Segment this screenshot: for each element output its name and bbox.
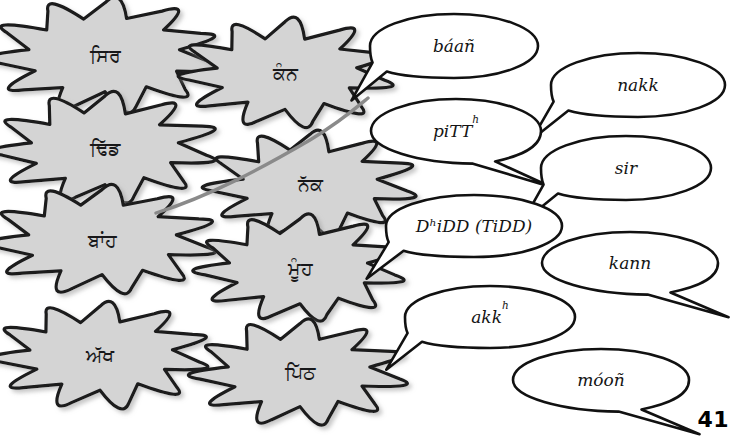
bubble-nakk: nakk	[532, 53, 725, 139]
burst-kann-label: ਕੰਨ	[272, 62, 299, 84]
bubble-moon: móoñ	[513, 349, 700, 434]
burst-moon-label: ਮੂੰਹ	[287, 257, 313, 282]
worksheet-artwork: ਸਿਰਕੰਨਢਿੱਡਨੱਕਬਾਂਹਮੂੰਹਅੱਖਪਿੱਠ báañnakkpiT…	[0, 0, 739, 438]
burst-group: ਸਿਰਕੰਨਢਿੱਡਨੱਕਬਾਂਹਮੂੰਹਅੱਖਪਿੱਠ	[0, 0, 416, 425]
burst-pitth: ਪਿੱਠ	[188, 319, 407, 425]
burst-dhidd-label: ਢਿੱਡ	[89, 137, 121, 159]
burst-nakk-label: ਨੱਕ	[297, 173, 324, 195]
burst-pitth-label: ਪਿੱਠ	[284, 361, 316, 383]
bubble-dhidd: DʰiDD (TiDD)	[367, 195, 562, 279]
bubble-nakk-shape	[532, 53, 725, 139]
burst-akkh-label: ਅੱਖ	[85, 344, 115, 366]
worksheet-page: ਸਿਰਕੰਨਢਿੱਡਨੱਕਬਾਂਹਮੂੰਹਅੱਖਪਿੱਠ báañnakkpiT…	[0, 0, 739, 438]
bubble-group: báañnakkpiTThsirDʰiDD (TiDD)kannakkhmóoñ	[352, 14, 729, 434]
bubble-kann-label: kann	[609, 253, 651, 273]
bubble-sir-label: sir	[615, 158, 638, 178]
bubble-moon-shape	[513, 349, 700, 434]
bubble-dhidd-shape	[367, 195, 562, 279]
burst-baan-label: ਬਾਂਹ	[87, 229, 117, 251]
bubble-nakk-label: nakk	[617, 75, 659, 95]
bubble-baan-label: báañ	[433, 36, 475, 56]
burst-sir-label: ਸਿਰ	[89, 44, 122, 66]
bubble-dhidd-label: DʰiDD (TiDD)	[415, 216, 532, 236]
burst-akkh: ਅੱਖ	[0, 301, 208, 409]
burst-baan: ਬਾਂਹ	[0, 184, 215, 293]
bubble-moon-label: móoñ	[577, 370, 625, 390]
page-number: 41	[697, 407, 729, 432]
